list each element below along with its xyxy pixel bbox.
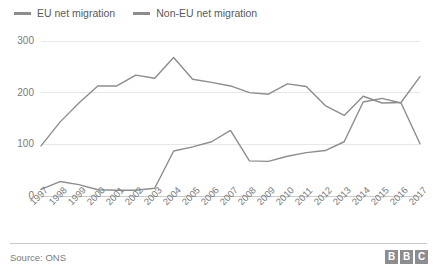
bbc-logo-letter-2: B	[400, 250, 413, 264]
footer-divider	[10, 243, 427, 244]
legend-swatch-eu	[14, 12, 31, 15]
source-note: Source: ONS	[10, 252, 66, 264]
chart-legend: EU net migration Non-EU net migration	[14, 6, 257, 20]
legend-label-eu: EU net migration	[37, 8, 115, 19]
migration-line-chart: EU net migration Non-EU net migration 01…	[0, 0, 437, 273]
legend-item-eu[interactable]: EU net migration	[14, 8, 115, 19]
legend-label-non-eu: Non-EU net migration	[156, 8, 257, 19]
legend-item-non-eu[interactable]: Non-EU net migration	[133, 8, 257, 19]
bbc-logo: B B C	[385, 250, 428, 264]
y-axis-tick-label: 300	[8, 36, 34, 46]
plot-area: 0100200300	[0, 28, 437, 203]
y-axis-tick-label: 100	[8, 139, 34, 149]
plot-svg	[0, 28, 437, 203]
bbc-logo-letter-1: B	[385, 250, 398, 264]
x-axis-ticks: 1997199819992000200120022003200420052006…	[0, 196, 437, 238]
y-axis-tick-label: 200	[8, 88, 34, 98]
legend-swatch-non-eu	[133, 12, 150, 15]
bbc-logo-letter-3: C	[415, 250, 428, 264]
